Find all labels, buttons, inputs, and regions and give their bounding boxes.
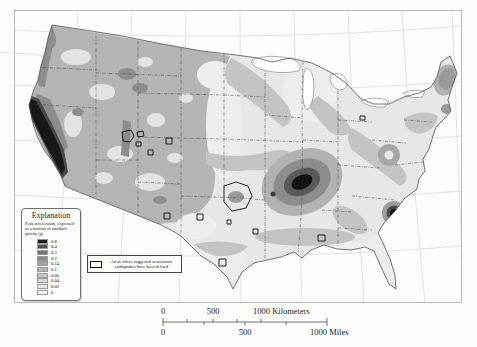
legend-swatch — [37, 261, 48, 266]
legend-swatch — [37, 290, 48, 295]
neotectonic-note-box: Areas where suggested neotectonic earthq… — [87, 255, 182, 273]
deleted-area-symbol — [90, 261, 102, 268]
legend-entry-label: 0.8 — [51, 239, 57, 244]
legend-entry-label: 0.2 — [51, 256, 57, 261]
scale-bar-line — [163, 318, 327, 326]
legend-entry-label: 0.02 — [51, 284, 59, 289]
scale-km-1000: 1000 Kilometers — [253, 306, 310, 316]
scale-bar: 0 500 1000 Kilometers 0 500 1000 Miles — [161, 306, 349, 337]
legend-swatch — [37, 250, 48, 255]
legend-subtitle: Peak acceleration, expressed as a fracti… — [25, 221, 77, 236]
legend-entry-label: 0.14 — [51, 261, 59, 266]
legend-title: Explanation — [25, 211, 77, 220]
legend-box: Explanation Peak acceleration, expressed… — [21, 208, 81, 301]
legend-swatch — [37, 239, 48, 244]
legend-swatch — [37, 278, 48, 283]
scale-km-0: 0 — [161, 306, 165, 316]
legend-entries: 0.80.40.30.20.140.10.060.040.020 — [37, 238, 77, 295]
neotectonic-note-text: Areas where suggested neotectonic earthq… — [104, 259, 179, 270]
legend-swatch — [37, 267, 48, 272]
legend-entry-label: 0.06 — [51, 273, 59, 278]
legend-swatch — [37, 284, 48, 289]
scale-km-500: 500 — [207, 306, 220, 316]
legend-entry-label: 0.3 — [51, 250, 57, 255]
legend-swatch — [37, 244, 48, 249]
legend-swatch — [37, 256, 48, 261]
legend-entry-label: 0.4 — [51, 244, 57, 249]
legend-swatch — [37, 273, 48, 278]
legend-entry: 0 — [37, 289, 77, 295]
scale-mi-0: 0 — [161, 327, 165, 337]
scale-mi-1000: 1000 Miles — [310, 327, 349, 337]
seismic-hazard-map-page: 0 500 1000 Kilometers 0 500 1000 Miles E… — [0, 0, 477, 347]
legend-entry-label: 0 — [51, 290, 53, 295]
legend-entry-label: 0.1 — [51, 267, 57, 272]
scale-mi-500: 500 — [239, 327, 252, 337]
legend-entry-label: 0.04 — [51, 278, 59, 283]
